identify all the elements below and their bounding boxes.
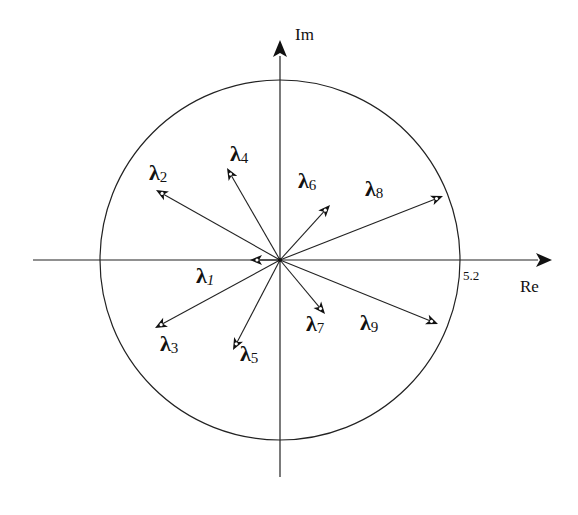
complex-plane	[0, 0, 578, 515]
arrowhead-icon	[156, 190, 169, 200]
real-axis-arrow-icon	[536, 253, 552, 267]
eigenvalue-label-2: λ2	[149, 162, 167, 184]
vector-5	[233, 260, 280, 350]
imag-axis-arrow-icon	[273, 40, 287, 57]
vector-8	[280, 196, 443, 260]
eigenvalue-label-5: λ5	[240, 343, 258, 365]
lambda-symbol: λ	[160, 331, 171, 356]
vector-7	[280, 260, 325, 314]
radius-label: 5.2	[463, 269, 479, 282]
eigenvalue-vectors	[155, 168, 443, 350]
arrowhead-icon	[155, 318, 168, 328]
eigenvalue-label-6: λ6	[298, 170, 316, 192]
lambda-subscript: 6	[309, 177, 317, 193]
real-axis-label: Re	[520, 278, 539, 295]
vector-1	[250, 255, 280, 265]
eigenvalue-label-7: λ7	[306, 313, 324, 335]
lambda-symbol: λ	[240, 341, 251, 366]
lambda-symbol: λ	[360, 310, 371, 335]
lambda-subscript: 5	[251, 350, 259, 366]
eigenvalue-label-9: λ9	[360, 312, 378, 334]
eigenvalue-label-1: λ1	[196, 265, 214, 287]
lambda-subscript: 8	[376, 185, 384, 201]
eigenvalue-label-4: λ4	[230, 143, 248, 165]
lambda-subscript: 9	[371, 319, 379, 335]
lambda-symbol: λ	[365, 176, 376, 201]
eigenvalue-label-3: λ3	[160, 333, 178, 355]
lambda-symbol: λ	[230, 141, 241, 166]
vector-4	[227, 168, 280, 260]
lambda-symbol: λ	[196, 263, 207, 288]
lambda-symbol: λ	[149, 160, 160, 185]
origin-dot	[278, 258, 282, 262]
vector-3	[155, 260, 280, 328]
eigenvalue-label-8: λ8	[365, 178, 383, 200]
vector-9	[280, 260, 438, 324]
arrowhead-icon	[227, 168, 237, 181]
lambda-subscript: 1	[207, 272, 215, 288]
lambda-subscript: 7	[317, 320, 325, 336]
lambda-subscript: 3	[171, 340, 179, 356]
vector-2	[156, 190, 280, 260]
imag-axis-label: Im	[295, 26, 314, 43]
lambda-subscript: 4	[241, 150, 249, 166]
lambda-subscript: 2	[160, 169, 168, 185]
lambda-symbol: λ	[306, 311, 317, 336]
vector-6	[280, 205, 330, 260]
lambda-symbol: λ	[298, 168, 309, 193]
